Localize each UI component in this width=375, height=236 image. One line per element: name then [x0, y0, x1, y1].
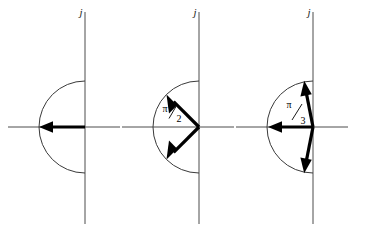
imaginary-axis-label: j: [191, 6, 196, 18]
angle-label-pi-over-3: π 3: [286, 99, 305, 126]
vector-arrowhead: [39, 121, 53, 133]
vector-arrowhead: [268, 121, 282, 133]
vector-1: [39, 121, 85, 133]
vector-shaft: [306, 127, 313, 163]
vector-arrowhead: [300, 158, 311, 174]
angle-numerator: π: [162, 103, 167, 114]
vector-1: [167, 95, 200, 128]
imaginary-axis-label: j: [77, 6, 82, 18]
angle-numerator: π: [286, 99, 291, 110]
panel-2: j π 2: [122, 6, 234, 224]
imaginary-axis-label: j: [305, 6, 310, 18]
vector-arrowhead: [167, 141, 178, 160]
vector-arrowhead: [300, 81, 311, 97]
panel-1: j: [8, 6, 120, 224]
vector-shaft: [306, 91, 313, 127]
vector-3: [300, 127, 313, 173]
angle-denominator: 2: [177, 113, 182, 124]
panel-3: j π 3: [236, 6, 348, 224]
vector-arrowhead: [167, 95, 178, 114]
angle-denominator: 3: [301, 115, 306, 126]
vector-1: [268, 121, 313, 133]
phasor-diagram-svg: j j π 2: [0, 0, 375, 236]
vector-shaft: [174, 127, 199, 152]
figure-root: j j π 2: [0, 0, 375, 236]
vector-2: [167, 127, 200, 160]
